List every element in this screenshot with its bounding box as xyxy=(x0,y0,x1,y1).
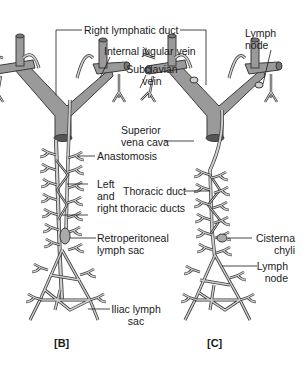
panel-label-c: [C] xyxy=(207,337,222,349)
label-superior-vena-cava: Superior vena cava xyxy=(121,124,169,148)
label-left-right-thoracic-ducts: Left and right thoracic ducts xyxy=(97,178,185,214)
label-subclavian-vein: Subclavian vein xyxy=(122,63,182,87)
label-internal-jugular-vein: Internal jugular vein xyxy=(104,45,196,57)
panel-label-b: [B] xyxy=(54,337,69,349)
label-iliac-lymph-sac: Iliac lymph sac xyxy=(108,303,164,327)
panel-b-drawing xyxy=(0,34,130,320)
label-lymph-node-bottom: Lymph node xyxy=(245,260,288,284)
label-retroperitoneal-lymph-sac: Retroperitoneal lymph sac xyxy=(97,232,169,256)
label-lymph-node-top: Lymph node xyxy=(245,27,276,51)
label-cisterna-chyli: Cisterna chyli xyxy=(245,232,295,256)
label-anastomosis: Anastomosis xyxy=(97,150,157,162)
label-right-lymphatic-duct: Right lymphatic duct xyxy=(84,24,179,36)
